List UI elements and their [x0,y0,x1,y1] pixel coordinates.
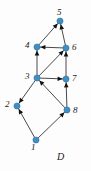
arrowhead-7-to-6 [64,51,69,56]
arrowhead-3-to-4 [35,50,40,55]
arrowhead-6-to-4 [40,45,45,50]
node-label-8: 8 [73,106,78,115]
graph-edge-1-to-8 [38,112,64,137]
graph-node-5[interactable] [57,18,63,24]
node-label-4: 4 [25,41,30,50]
node-label-2: 2 [5,100,10,109]
graph-node-7[interactable] [63,76,69,82]
graph-edge-3-to-6 [39,50,63,75]
arrowhead-8-to-7 [64,82,69,87]
arrowhead-3-to-2 [19,98,24,103]
graph-node-2[interactable] [14,103,20,109]
figure-caption: D [57,152,64,162]
graph-node-3[interactable] [34,75,40,81]
arrowhead-3-to-7 [58,76,63,81]
node-label-1: 1 [31,143,36,152]
nodes-layer [14,18,70,143]
node-label-5: 5 [57,8,62,17]
graph-node-4[interactable] [34,44,40,50]
node-label-6: 6 [72,43,77,52]
node-label-7: 7 [72,74,77,83]
graph-canvas [0,0,91,171]
node-label-3: 3 [25,72,30,81]
graph-edge-8-to-3 [39,80,65,107]
graph-node-8[interactable] [64,107,70,113]
arrowhead-6-to-5 [60,24,64,29]
directed-graph-figure: 12345678 D [0,0,91,171]
graph-node-6[interactable] [63,45,69,51]
